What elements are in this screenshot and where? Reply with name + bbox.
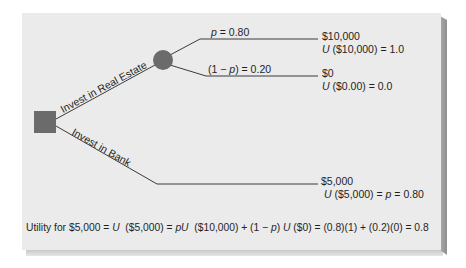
formula-part: ($10,000) + (1 − — [189, 222, 271, 233]
utility-value: = 0.80 — [391, 188, 423, 200]
branch-line-win — [170, 39, 318, 55]
outcome-utility-lose: U ($0.00) = 0.0 — [322, 80, 392, 92]
formula-part: ($0) = (0.8)(1) + (0.2)(0) = 0.8 — [290, 222, 428, 233]
chance-node-circle — [153, 50, 173, 70]
utility-u: U — [322, 80, 330, 92]
formula-u: U — [112, 222, 119, 233]
prob-pre: (1 − — [208, 63, 229, 75]
utility-value: ($10,000) = 1.0 — [330, 43, 404, 55]
utility-value: ($0.00) = 0.0 — [330, 80, 393, 92]
outcome-value-lose: $0 — [322, 67, 334, 79]
formula-part: Utility for $5,000 = — [26, 222, 112, 233]
utility-u: U — [322, 43, 330, 55]
utility-mid: ($5,000) = — [332, 188, 386, 200]
formula-pu: pU — [175, 222, 188, 233]
probability-label-lose: (1 − p) = 0.20 — [208, 63, 271, 75]
formula-part: ($5,000) = — [120, 222, 176, 233]
outcome-value-bank: $5,000 — [321, 175, 353, 187]
prob-value: = 0.80 — [217, 26, 249, 38]
prob-value: ) = 0.20 — [235, 63, 271, 75]
probability-label-win: p = 0.80 — [211, 26, 249, 38]
outcome-value-win: $10,000 — [322, 30, 360, 42]
utility-u: U — [324, 188, 332, 200]
decision-node-square — [34, 111, 56, 133]
branch-line-bank — [56, 126, 318, 184]
outcome-utility-bank: U ($5,000) = p = 0.80 — [324, 188, 424, 200]
utility-formula: Utility for $5,000 = U ($5,000) = pU ($1… — [26, 222, 429, 234]
outcome-utility-win: U ($10,000) = 1.0 — [322, 43, 404, 55]
